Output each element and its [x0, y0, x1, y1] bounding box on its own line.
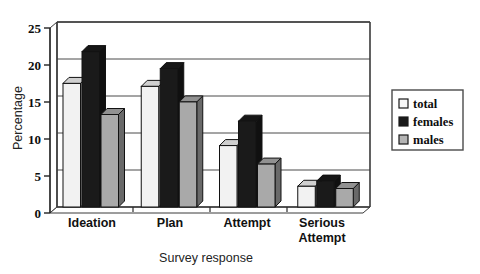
x-category-labels: Ideation Plan Attempt Serious Attempt: [68, 216, 346, 245]
legend-label-males: males: [413, 133, 444, 147]
bar-serious-attempt-males: [336, 183, 360, 208]
y-tick-marks: [44, 28, 50, 213]
category-label-plan: Plan: [157, 216, 183, 230]
legend-swatch-males: [399, 135, 408, 144]
bar-front-face: [239, 121, 257, 207]
y-tick-label-5: 5: [35, 169, 42, 184]
bar-chart-figure: 0 5 10 15 20 25 Percentage Ideation Plan…: [0, 0, 480, 274]
y-tick-label-10: 10: [28, 132, 41, 147]
bar-front-face: [317, 181, 335, 207]
bar-front-face: [160, 69, 178, 207]
bar-front-face: [336, 189, 354, 208]
x-axis-title: Survey response: [159, 251, 253, 265]
category-label-attempt: Attempt: [223, 216, 271, 230]
bar-side-face: [197, 96, 203, 207]
y-axis-title: Percentage: [11, 86, 25, 150]
y-tick-labels: 0 5 10 15 20 25: [28, 21, 42, 221]
legend-label-females: females: [413, 115, 453, 129]
bar-front-face: [82, 52, 100, 207]
category-label-serious-attempt-line1: Serious: [299, 216, 345, 230]
bar-attempt-males: [258, 158, 282, 207]
plot-left-wall: [50, 22, 57, 213]
bar-side-face: [275, 158, 281, 207]
bar-plan-males: [179, 96, 203, 207]
y-tick-label-0: 0: [35, 206, 42, 221]
legend-swatch-females: [399, 117, 408, 126]
category-label-serious-attempt-line2: Attempt: [298, 231, 346, 245]
y-tick-label-15: 15: [28, 95, 42, 110]
bar-front-face: [63, 83, 81, 207]
bar-front-face: [179, 102, 197, 207]
category-label-ideation: Ideation: [68, 216, 116, 230]
legend: total females males: [392, 90, 463, 150]
bar-front-face: [298, 186, 316, 207]
y-tick-label-25: 25: [28, 21, 42, 36]
bar-ideation-males: [101, 109, 125, 208]
chart-canvas: 0 5 10 15 20 25 Percentage Ideation Plan…: [0, 0, 480, 274]
bar-front-face: [141, 86, 159, 207]
bar-side-face: [119, 109, 125, 208]
legend-label-total: total: [413, 97, 438, 111]
bar-front-face: [101, 115, 119, 208]
y-tick-label-20: 20: [28, 58, 41, 73]
bar-front-face: [220, 146, 238, 207]
bar-front-face: [258, 164, 276, 207]
legend-swatch-total: [399, 99, 408, 108]
